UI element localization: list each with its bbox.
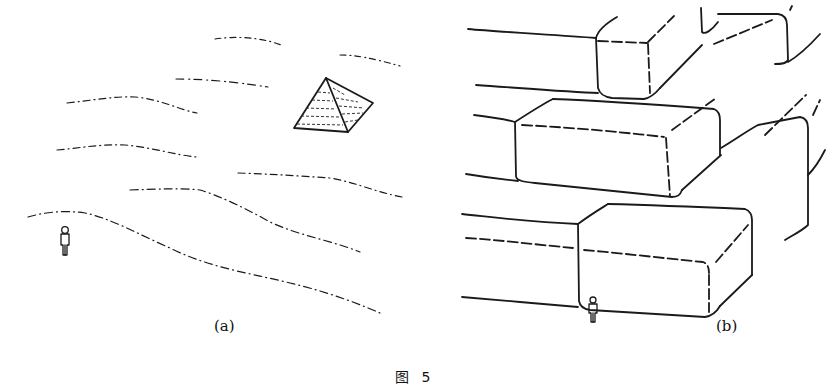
dune-line <box>57 145 197 157</box>
human-figure-icon <box>61 227 69 255</box>
panel-a-landscape <box>28 37 402 313</box>
dune-line <box>176 79 268 87</box>
dune-line <box>28 212 380 313</box>
dune-line <box>215 37 281 45</box>
dune-line <box>238 173 402 197</box>
panel-a-label: (a) <box>214 317 235 335</box>
dune-line <box>340 55 400 66</box>
dune-line <box>67 97 197 113</box>
figure-caption: 图 5 <box>395 366 434 386</box>
panel-b-label: (b) <box>716 317 737 335</box>
panel-b-blocks <box>462 6 825 317</box>
pyramid-icon <box>294 78 373 132</box>
dune-line <box>130 189 360 252</box>
